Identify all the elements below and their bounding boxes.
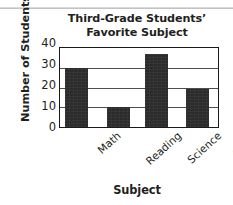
- bar-series: [60, 48, 218, 127]
- top-divider-rule: [0, 7, 233, 9]
- y-tick-label: 10: [28, 101, 56, 113]
- x-category-science: Science: [186, 130, 224, 166]
- y-axis-tick-labels: 40 30 20 10 0: [28, 44, 56, 128]
- bar-social-studies: [186, 89, 209, 127]
- bar-science: [145, 54, 168, 127]
- bar-math: [65, 68, 88, 127]
- chart-title-line-1: Third-Grade Students’: [46, 12, 228, 26]
- bar-reading: [107, 107, 130, 127]
- bar-chart-figure: Third-Grade Students’ Favorite Subject N…: [0, 0, 233, 205]
- y-tick-label: 30: [28, 59, 56, 71]
- chart-title: Third-Grade Students’ Favorite Subject: [46, 12, 228, 39]
- x-axis-category-labels: Math Reading Science Social Studies: [59, 130, 219, 182]
- y-tick-label: 20: [28, 80, 56, 92]
- x-category-line: Science: [186, 130, 224, 166]
- x-category-math: Math: [96, 130, 123, 156]
- x-category-line: Reading: [144, 130, 183, 167]
- plot-area: [59, 47, 219, 128]
- x-category-line: Social: [225, 130, 233, 164]
- y-tick-label: 0: [28, 122, 56, 134]
- y-tick-label: 40: [28, 38, 56, 50]
- x-category-line: Math: [96, 130, 123, 156]
- x-axis-title: Subject: [46, 183, 228, 197]
- x-category-social-studies: Social Studies: [225, 130, 233, 173]
- x-category-reading: Reading: [144, 130, 183, 167]
- chart-title-line-2: Favorite Subject: [46, 26, 228, 40]
